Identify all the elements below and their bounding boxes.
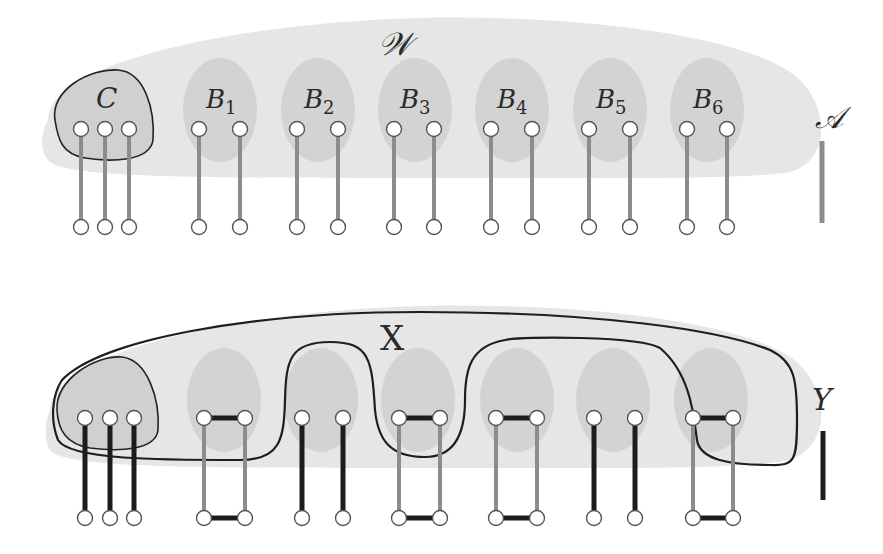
legend-a-label: 𝒜 bbox=[815, 100, 852, 135]
bottom-panel: X bbox=[46, 306, 836, 526]
contour-x-label: X bbox=[380, 318, 405, 358]
diagram-canvas: 𝒲 C B1 B2 B3 B4 B5 B6 bbox=[0, 0, 883, 554]
top-panel: 𝒲 C B1 B2 B3 B4 B5 B6 bbox=[42, 18, 852, 235]
cluster-c-label: C bbox=[96, 82, 117, 115]
legend-y-label: Υ bbox=[812, 382, 835, 417]
